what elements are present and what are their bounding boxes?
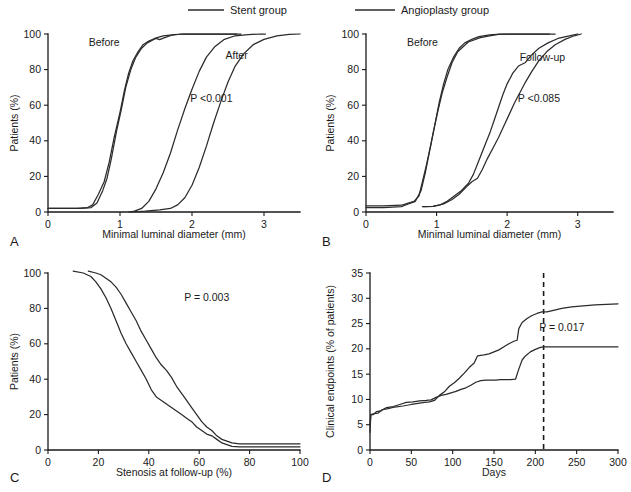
data-curve-0 [48, 34, 237, 208]
y-tick-label: 20 [347, 170, 359, 182]
x-tick-label: 3 [261, 218, 267, 230]
curve-annotation: After [226, 49, 249, 61]
x-tick-label: 300 [609, 456, 627, 468]
y-tick-label: 100 [23, 28, 41, 40]
chart-panel-c: 020406080100020406080100P = 0.003Stenosi… [8, 267, 309, 485]
curve-annotation: Before [89, 36, 120, 48]
y-tick-label: 60 [29, 337, 41, 349]
y-axis-title: Patients (%) [324, 94, 336, 151]
x-axis-title: Minimal luminal diameter (mm) [102, 228, 246, 240]
pvalue-annotation: P <0.085 [518, 92, 560, 104]
figure-root: Stent groupAngioplasty group020406080100… [0, 0, 631, 492]
y-tick-label: 100 [341, 28, 359, 40]
y-tick-label: 60 [347, 99, 359, 111]
y-tick-label: 20 [351, 342, 363, 354]
y-tick-label: 25 [351, 317, 363, 329]
x-tick-label: 200 [527, 456, 545, 468]
x-tick-label: 0 [363, 218, 369, 230]
y-axis-title: Clinical endpoints (% of patients) [324, 285, 336, 438]
axis-spines [370, 273, 618, 450]
x-tick-label: 50 [405, 456, 417, 468]
y-tick-label: 80 [347, 63, 359, 75]
y-tick-label: 40 [29, 134, 41, 146]
legend-label-1: Angioplasty group [401, 4, 489, 16]
y-tick-label: 30 [351, 292, 363, 304]
y-tick-label: 0 [357, 444, 363, 456]
x-tick-label: 100 [444, 456, 462, 468]
y-tick-label: 0 [353, 206, 359, 218]
y-tick-label: 5 [357, 418, 363, 430]
y-tick-label: 20 [29, 408, 41, 420]
x-tick-label: 0 [367, 456, 373, 468]
panel-letter-C: C [10, 470, 19, 485]
y-tick-label: 40 [347, 134, 359, 146]
panel-letter-B: B [322, 234, 331, 249]
y-tick-label: 80 [29, 302, 41, 314]
pvalue-annotation: P = 0.003 [184, 291, 229, 303]
x-tick-label: 80 [244, 456, 256, 468]
y-axis-title: Patients (%) [8, 333, 20, 390]
chart-panel-b: 0204060801000123BeforeFollow-upP <0.085M… [322, 28, 613, 249]
x-tick-label: 0 [45, 456, 51, 468]
x-tick-label: 0 [45, 218, 51, 230]
x-tick-label: 20 [93, 456, 105, 468]
axis-spines [48, 34, 300, 212]
x-axis-title: Stenosis at follow-up (%) [116, 466, 232, 478]
four-panel-figure: Stent groupAngioplasty group020406080100… [0, 0, 631, 492]
y-axis-title: Patients (%) [8, 94, 20, 151]
chart-panel-a: 0204060801000123BeforeAfterP <0.001Minim… [8, 28, 300, 249]
y-tick-label: 0 [35, 444, 41, 456]
data-curve-1 [48, 34, 241, 208]
data-curve-1 [370, 347, 618, 425]
panel-letter-A: A [10, 234, 19, 249]
x-tick-label: 250 [568, 456, 586, 468]
curve-annotation: Follow-up [520, 51, 566, 63]
y-tick-label: 100 [23, 267, 41, 279]
y-tick-label: 15 [351, 368, 363, 380]
y-tick-label: 10 [351, 393, 363, 405]
x-axis-title: Minimal luminal diameter (mm) [418, 228, 562, 240]
axis-spines [366, 34, 613, 212]
pvalue-annotation: P <0.001 [190, 92, 232, 104]
y-tick-label: 0 [35, 206, 41, 218]
data-curve-3 [131, 34, 300, 212]
pvalue-annotation: P = 0.017 [539, 321, 584, 333]
curve-annotation: Before [407, 36, 438, 48]
figure-legend: Stent groupAngioplasty group [188, 4, 489, 16]
y-tick-label: 40 [29, 373, 41, 385]
y-tick-label: 35 [351, 267, 363, 279]
x-axis-title: Days [482, 466, 506, 478]
y-tick-label: 20 [29, 170, 41, 182]
panel-letter-D: D [322, 470, 331, 485]
y-tick-label: 80 [29, 63, 41, 75]
x-tick-label: 100 [291, 456, 309, 468]
chart-panel-d: 05101520253035050100150200250300P = 0.01… [322, 267, 627, 485]
legend-label-0: Stent group [230, 4, 287, 16]
x-tick-label: 3 [575, 218, 581, 230]
axis-spines [48, 273, 300, 450]
y-tick-label: 60 [29, 99, 41, 111]
